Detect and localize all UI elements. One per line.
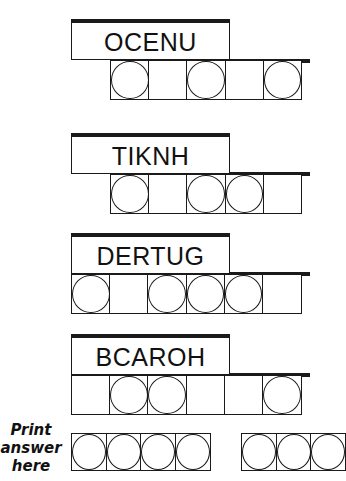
letter-cell[interactable] bbox=[148, 60, 188, 100]
answer-cell[interactable] bbox=[106, 433, 142, 471]
letter-cells bbox=[71, 375, 302, 415]
answer-cell[interactable] bbox=[175, 433, 211, 471]
letter-cell-circled[interactable] bbox=[186, 60, 226, 100]
letter-cell-circled[interactable] bbox=[147, 375, 187, 415]
letter-cell[interactable] bbox=[148, 174, 188, 214]
answer-label-line-2: answer bbox=[0, 439, 62, 457]
answer-cell[interactable] bbox=[71, 433, 107, 471]
letter-cell-circled[interactable] bbox=[224, 274, 264, 314]
answer-cell[interactable] bbox=[140, 433, 176, 471]
letter-cells bbox=[71, 274, 302, 314]
answer-label: Print answer here bbox=[0, 421, 62, 475]
letter-cell-circled[interactable] bbox=[186, 274, 226, 314]
letter-cell[interactable] bbox=[186, 375, 226, 415]
scrambled-word: BCAROH bbox=[96, 341, 206, 372]
letter-cell[interactable] bbox=[225, 60, 265, 100]
answer-group-1 bbox=[71, 433, 211, 471]
letter-cell-circled[interactable] bbox=[110, 60, 150, 100]
scrambled-word-box: TIKNH bbox=[71, 133, 230, 174]
letter-cells bbox=[110, 174, 302, 214]
letter-cell-circled[interactable] bbox=[109, 375, 149, 415]
letter-cell-circled[interactable] bbox=[71, 274, 111, 314]
letter-cells bbox=[110, 60, 302, 100]
scrambled-word-box: BCAROH bbox=[71, 334, 230, 375]
answer-cell[interactable] bbox=[241, 433, 277, 471]
scrambled-word-box: DERTUG bbox=[71, 233, 230, 274]
scrambled-word: DERTUG bbox=[96, 240, 204, 271]
letter-cell-circled[interactable] bbox=[186, 174, 226, 214]
letter-cell-circled[interactable] bbox=[263, 60, 303, 100]
letter-cell[interactable] bbox=[263, 174, 303, 214]
letter-cell[interactable] bbox=[262, 274, 302, 314]
letter-cell-circled[interactable] bbox=[225, 174, 265, 214]
answer-label-line-3: here bbox=[0, 457, 62, 475]
letter-cell[interactable] bbox=[71, 375, 111, 415]
scrambled-word-box: OCENU bbox=[71, 19, 230, 60]
letter-cell[interactable] bbox=[109, 274, 149, 314]
answer-label-line-1: Print bbox=[0, 421, 62, 439]
answer-group-2 bbox=[241, 433, 346, 471]
scrambled-word: OCENU bbox=[104, 26, 197, 57]
letter-cell-circled[interactable] bbox=[110, 174, 150, 214]
scrambled-word: TIKNH bbox=[112, 140, 190, 171]
answer-cell[interactable] bbox=[276, 433, 312, 471]
letter-cell[interactable] bbox=[224, 375, 264, 415]
letter-cell-circled[interactable] bbox=[262, 375, 302, 415]
answer-cell[interactable] bbox=[310, 433, 346, 471]
letter-cell-circled[interactable] bbox=[147, 274, 187, 314]
